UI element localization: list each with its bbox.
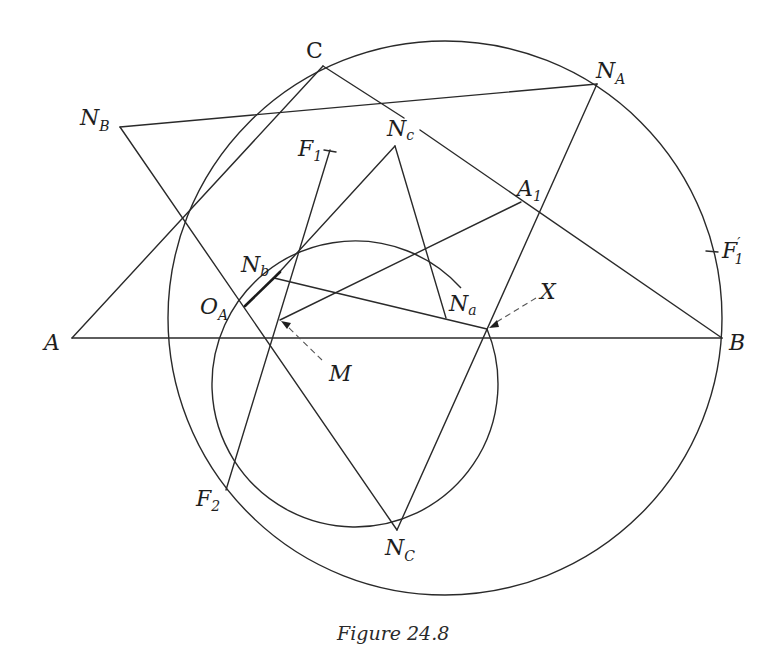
- label-X: X: [538, 279, 557, 304]
- label-Na: Na: [448, 291, 477, 318]
- pointer-M: [288, 327, 322, 360]
- line-F1-F2: [226, 150, 330, 490]
- side-CB-part1: [323, 66, 404, 118]
- label-NB: NB: [79, 105, 110, 134]
- label-NC: NC: [384, 535, 415, 564]
- geometry-figure: A B C NA NB NC Nc Nb Na A1 F1 F2 F′1 OA …: [0, 0, 781, 660]
- segment-NB-NA: [120, 84, 597, 127]
- tick-F1-prime: [706, 251, 718, 252]
- label-M: M: [328, 361, 352, 386]
- label-F2: F2: [195, 486, 220, 514]
- segment-Nc-Nb: [274, 146, 395, 278]
- label-A: A: [42, 330, 60, 355]
- label-Nc: Nc: [386, 116, 414, 143]
- label-NA: NA: [595, 58, 625, 87]
- label-A1: A1: [515, 176, 542, 204]
- label-F1-prime: F′1: [721, 235, 743, 267]
- segment-NA-NC: [397, 84, 597, 530]
- label-B: B: [728, 330, 745, 355]
- label-F1: F1: [297, 136, 322, 164]
- label-OA: OA: [200, 294, 228, 323]
- segment-M-A1: [280, 202, 521, 320]
- label-Nb: Nb: [240, 252, 269, 279]
- tick-F1: [324, 150, 336, 152]
- figure-caption: Figure 24.8: [336, 622, 449, 644]
- segment-Nc-Na: [395, 146, 446, 318]
- label-C: C: [306, 38, 323, 63]
- pointer-X: [495, 298, 536, 323]
- segment-NB-NC: [120, 127, 397, 530]
